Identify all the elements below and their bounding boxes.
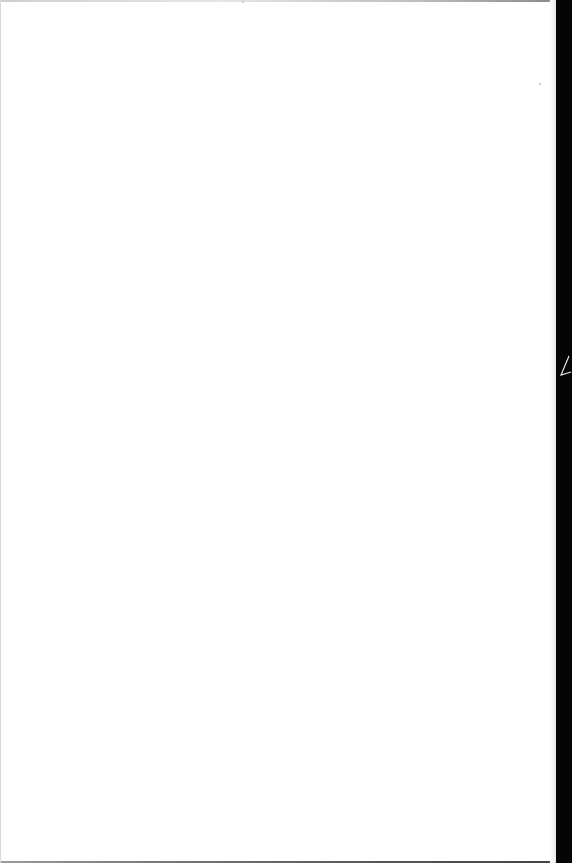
scan-speck bbox=[539, 83, 541, 85]
hook-mark-icon bbox=[559, 355, 572, 379]
scan-speck bbox=[242, 1, 244, 3]
blank-page bbox=[0, 0, 557, 863]
scan-edge-shadow bbox=[556, 0, 572, 863]
page-top-edge bbox=[1, 0, 557, 2]
